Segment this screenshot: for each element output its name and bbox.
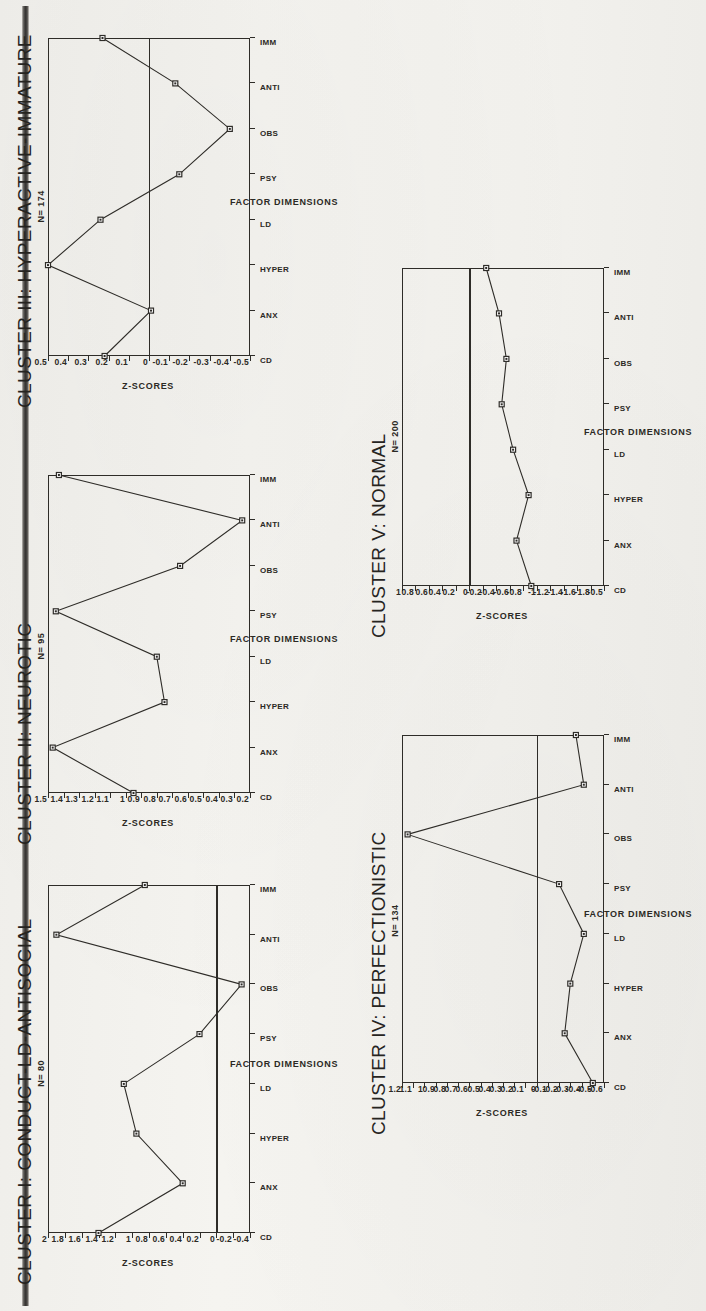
data-point-center — [592, 1082, 594, 1084]
data-point-center — [156, 656, 158, 658]
chart-body: CLUSTER II: NEUROTICN= 951.51.41.31.21.1… — [8, 455, 308, 855]
data-point-center — [98, 1232, 100, 1234]
data-point-center — [47, 264, 49, 266]
data-point-center — [569, 983, 571, 985]
data-point-center — [241, 519, 243, 521]
data-point-center — [485, 267, 487, 269]
data-point-center — [55, 610, 57, 612]
chart-panel-cluster-4: CLUSTER IV: PERFECTIONISTICN= 1341.21.11… — [362, 715, 662, 1145]
data-point-center — [512, 449, 514, 451]
chart-panel-cluster-3: CLUSTER III: HYPERACTIVE-IMMATUREN= 1740… — [8, 18, 308, 418]
data-series-line — [8, 18, 308, 418]
data-point-center — [100, 219, 102, 221]
data-point-center — [144, 884, 146, 886]
data-point-center — [407, 833, 409, 835]
data-point-center — [178, 173, 180, 175]
chart-body: CLUSTER V: NORMALN= 20010.80.60.40.20-0.… — [362, 248, 662, 648]
data-point-center — [102, 37, 104, 39]
scanned-page: CLUSTER I: CONDUCT-LD-ANTISOCIALN= 8021.… — [0, 0, 706, 1311]
data-point-center — [52, 747, 54, 749]
data-point-center — [179, 565, 181, 567]
data-point-center — [123, 1083, 125, 1085]
data-point-center — [575, 734, 577, 736]
data-point-center — [133, 792, 135, 794]
data-point-center — [104, 355, 106, 357]
data-point-center — [58, 474, 60, 476]
data-point-center — [505, 358, 507, 360]
data-point-center — [516, 540, 518, 542]
chart-body: CLUSTER IV: PERFECTIONISTICN= 1341.21.11… — [362, 715, 662, 1145]
data-point-center — [241, 983, 243, 985]
data-point-center — [564, 1032, 566, 1034]
data-point-center — [501, 403, 503, 405]
data-point-center — [164, 701, 166, 703]
data-point-center — [583, 784, 585, 786]
data-series-line — [8, 455, 308, 855]
chart-panel-cluster-5: CLUSTER V: NORMALN= 20010.80.60.40.20-0.… — [362, 248, 662, 648]
data-series-line — [362, 715, 662, 1145]
data-series-line — [8, 865, 308, 1295]
chart-body: CLUSTER I: CONDUCT-LD-ANTISOCIALN= 8021.… — [8, 865, 308, 1295]
data-point-center — [583, 933, 585, 935]
data-point-center — [229, 128, 231, 130]
data-point-center — [150, 310, 152, 312]
data-point-center — [530, 585, 532, 587]
data-series-line — [362, 248, 662, 648]
data-point-center — [55, 934, 57, 936]
chart-panel-cluster-2: CLUSTER II: NEUROTICN= 951.51.41.31.21.1… — [8, 455, 308, 855]
chart-panel-cluster-1: CLUSTER I: CONDUCT-LD-ANTISOCIALN= 8021.… — [8, 865, 308, 1295]
data-point-center — [528, 494, 530, 496]
chart-body: CLUSTER III: HYPERACTIVE-IMMATUREN= 1740… — [8, 18, 308, 418]
data-point-center — [182, 1182, 184, 1184]
data-point-center — [135, 1133, 137, 1135]
data-point-center — [498, 312, 500, 314]
data-point-center — [199, 1033, 201, 1035]
data-point-center — [558, 883, 560, 885]
data-point-center — [174, 82, 176, 84]
